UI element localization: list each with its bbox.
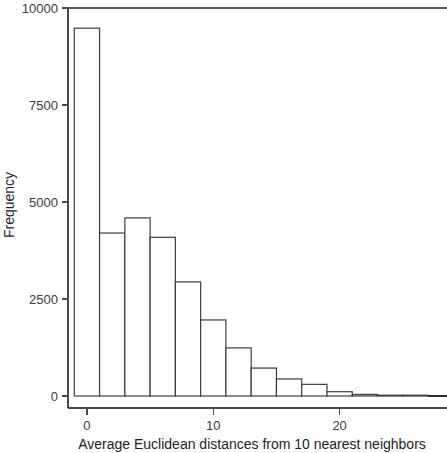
y-axis-title: Frequency [1, 172, 17, 238]
y-tick-label: 10000 [22, 1, 58, 16]
histogram-bar [403, 395, 428, 396]
histogram-bar [226, 348, 251, 396]
y-tick-label: 0 [51, 389, 58, 404]
histogram-bar [150, 237, 175, 396]
histogram-bar [201, 320, 226, 396]
histogram-bar [74, 28, 99, 396]
histogram-bar [125, 218, 150, 396]
histogram-bar [302, 384, 327, 396]
x-axis-ticks: 01020 [83, 408, 347, 433]
histogram-bar [327, 392, 352, 396]
histogram-bar [352, 394, 377, 396]
histogram-bar [175, 282, 200, 396]
chart-canvas: 025005000750010000 01020 Frequency Avera… [0, 0, 447, 453]
y-tick-label: 2500 [29, 292, 58, 307]
histogram-bar [251, 368, 276, 396]
y-axis-ticks: 025005000750010000 [22, 1, 68, 404]
y-tick-label: 7500 [29, 98, 58, 113]
histogram-bar [378, 395, 403, 396]
x-axis-title: Average Euclidean distances from 10 near… [78, 436, 426, 452]
histogram-bar [100, 233, 125, 396]
x-tick-label: 10 [206, 418, 220, 433]
histogram-chart: 025005000750010000 01020 Frequency Avera… [0, 0, 447, 453]
histogram-bar [276, 379, 301, 396]
x-tick-label: 0 [83, 418, 90, 433]
y-tick-label: 5000 [29, 195, 58, 210]
histogram-bars [74, 28, 447, 396]
x-tick-label: 20 [332, 418, 346, 433]
